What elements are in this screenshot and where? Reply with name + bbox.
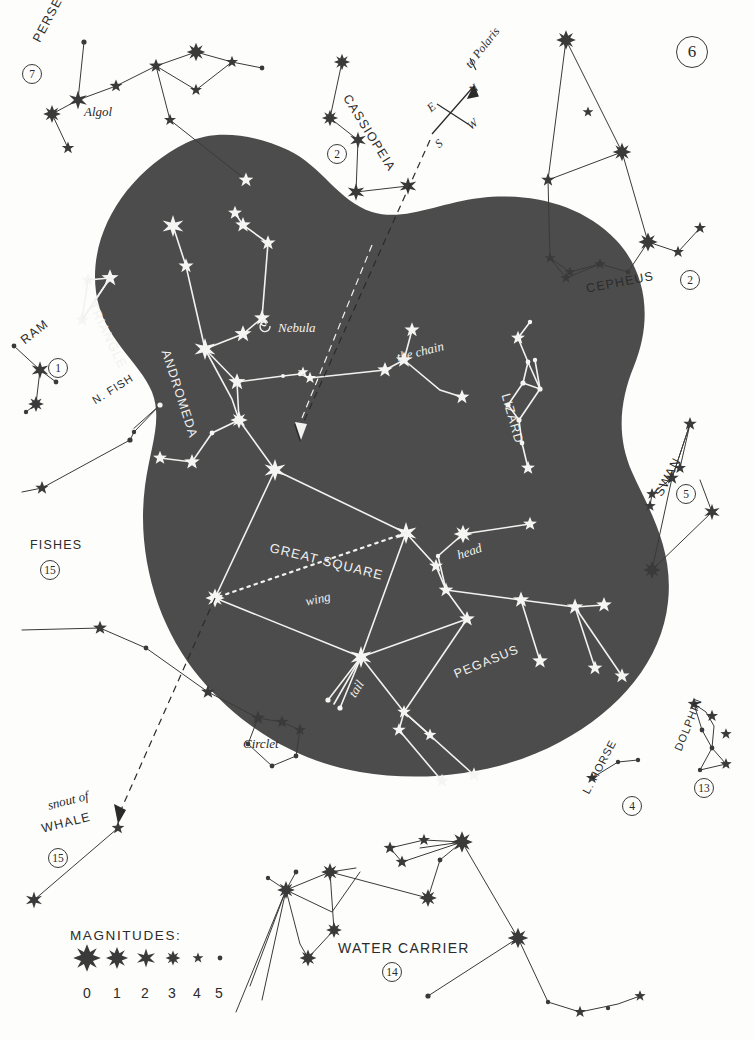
sky-silhouette <box>95 135 669 777</box>
page-number: 6 <box>676 36 708 68</box>
compass-rose <box>432 58 478 134</box>
magnitude-legend-stars <box>73 944 222 972</box>
constellation-number-perseus: 7 <box>22 64 42 84</box>
star-chart-page: 6 PERSEUS 7 CASSIOPEIA 2 CEPHEUS 2 TRIAN… <box>0 0 754 1040</box>
constellation-number-swan: 5 <box>676 484 696 504</box>
constellation-number-dolphin: 13 <box>694 778 714 798</box>
constellation-number-fishes: 15 <box>40 560 60 580</box>
constellation-number-whale: 15 <box>48 848 68 868</box>
constellation-number-ram: 1 <box>48 358 68 378</box>
constellation-number-cepheus: 2 <box>680 270 700 290</box>
star-chart-canvas <box>0 0 754 1040</box>
constellation-number-l-horse: 4 <box>622 796 642 816</box>
constellation-number-water-carrier: 14 <box>382 962 402 982</box>
constellation-number-cassiopeia: 2 <box>327 144 347 164</box>
